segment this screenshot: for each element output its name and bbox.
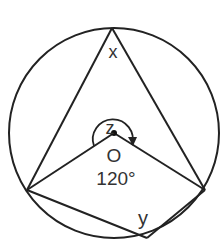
label-angle-120: 120°	[96, 168, 135, 189]
label-z: z	[106, 118, 115, 138]
chord-left-bottom	[27, 190, 147, 238]
chord-top-left	[27, 28, 112, 190]
label-x: x	[109, 42, 118, 62]
chord-top-right	[112, 28, 205, 190]
label-y: y	[138, 207, 148, 229]
label-centre-o: O	[107, 145, 122, 166]
chord-bottom-right	[147, 190, 205, 238]
circle-diagram: x z O 120° y	[0, 0, 224, 250]
